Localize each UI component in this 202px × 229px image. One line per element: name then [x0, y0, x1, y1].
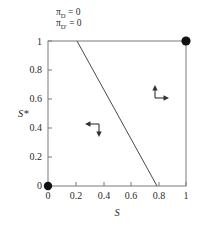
- nullcline-line: [77, 41, 157, 186]
- plot-area: πD = 0 πD' = 0 0 0.2 0.4 0.6: [0, 0, 202, 229]
- arrow-head-down: [96, 132, 101, 138]
- x-tick-label-1: 1: [184, 190, 189, 201]
- x-tick-label-0-8: 0.8: [153, 190, 166, 201]
- y-axis-ticks: [48, 41, 52, 186]
- x-tick-label-0-6: 0.6: [125, 190, 138, 201]
- nullcline-label-pi-D-prime: πD' = 0: [56, 18, 82, 30]
- y-tick-label-0-2: 0.2: [30, 151, 43, 162]
- y-tick-label-0-8: 0.8: [30, 64, 43, 75]
- flow-arrow-upper-right: [152, 85, 169, 101]
- y-tick-label-0-4: 0.4: [30, 122, 43, 133]
- y-tick-label-0: 0: [37, 180, 42, 191]
- phase-plane-figure: πD = 0 πD' = 0 0 0.2 0.4 0.6: [0, 0, 202, 229]
- nullcline-label-pi-D: πD = 0: [56, 7, 81, 19]
- flow-arrow-lower-left: [85, 121, 102, 137]
- x-axis-ticks: [48, 182, 186, 186]
- equilibrium-dot-upper-right: [181, 36, 190, 45]
- arrow-head-left: [85, 121, 91, 126]
- x-tick-label-0-4: 0.4: [98, 190, 111, 201]
- arrow-head-up: [152, 85, 157, 91]
- y-tick-label-0-6: 0.6: [30, 93, 43, 104]
- y-tick-label-1: 1: [37, 36, 42, 47]
- arrow-head-right: [164, 95, 170, 100]
- x-tick-label-0-2: 0.2: [70, 190, 83, 201]
- y-axis-title: S*: [18, 108, 29, 119]
- x-axis-title: S: [114, 207, 120, 218]
- x-tick-label-0: 0: [46, 190, 51, 201]
- equilibrium-dot-origin: [44, 182, 52, 190]
